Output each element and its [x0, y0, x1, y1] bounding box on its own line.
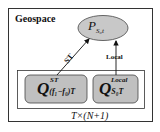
st-node-subscript: (f₁−f₀)T: [49, 87, 75, 96]
local-node-symbol: Q: [99, 79, 111, 98]
st-node-superscript: ST: [50, 76, 58, 84]
geospace-label: Geospace: [15, 13, 56, 24]
target-subscript: S₀t: [96, 27, 104, 35]
st-node-symbol: Q: [37, 79, 49, 98]
local-node-label: Local QS₀T: [99, 79, 123, 99]
local-node-superscript: Local: [111, 76, 127, 84]
local-node-subscript: S₀T: [111, 87, 123, 96]
group-label: T×(N+1): [71, 110, 108, 121]
st-node-label: ST Q(f₁−f₀)T: [37, 79, 75, 99]
target-symbol: P: [88, 18, 96, 33]
local-edge-label: Local: [106, 53, 123, 61]
target-node-label: PS₀t: [88, 18, 104, 35]
